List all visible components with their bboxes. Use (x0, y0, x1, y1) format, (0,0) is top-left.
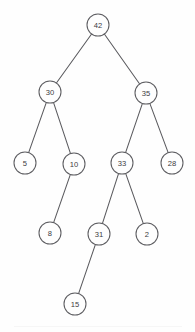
scan-artifact-line (14, 326, 182, 327)
tree-node-28[interactable]: 28 (161, 152, 183, 174)
tree-node-label-2: 2 (145, 230, 149, 239)
tree-node-label-8: 8 (48, 229, 52, 238)
edge-layer (29, 34, 169, 294)
tree-node-35[interactable]: 35 (135, 82, 157, 104)
tree-edge-30-to-5 (29, 102, 47, 152)
tree-node-label-42: 42 (94, 21, 103, 30)
tree-edge-30-to-10 (53, 102, 70, 153)
tree-edge-35-to-28 (150, 103, 168, 152)
tree-node-10[interactable]: 10 (63, 153, 85, 175)
tree-node-label-35: 35 (142, 89, 151, 98)
tree-node-8[interactable]: 8 (39, 222, 61, 244)
tree-node-33[interactable]: 33 (111, 152, 133, 174)
tree-node-label-30: 30 (46, 88, 55, 97)
tree-node-42[interactable]: 42 (87, 14, 109, 36)
tree-node-31[interactable]: 31 (88, 223, 110, 245)
tree-svg-root: 4230355103328831215 (0, 0, 195, 332)
tree-diagram-canvas: 4230355103328831215 (0, 0, 195, 332)
tree-node-5[interactable]: 5 (14, 152, 36, 174)
tree-edge-42-to-35 (104, 34, 139, 84)
tree-edge-35-to-33 (126, 103, 143, 152)
tree-node-30[interactable]: 30 (39, 81, 61, 103)
tree-node-label-31: 31 (95, 230, 104, 239)
tree-edge-42-to-30 (56, 34, 91, 83)
node-layer: 4230355103328831215 (14, 14, 183, 315)
tree-edge-10-to-8 (54, 174, 71, 222)
tree-node-label-33: 33 (118, 159, 127, 168)
tree-node-label-15: 15 (71, 300, 80, 309)
tree-node-label-28: 28 (168, 159, 177, 168)
tree-edge-31-to-15 (79, 244, 96, 293)
tree-node-15[interactable]: 15 (64, 293, 86, 315)
tree-node-label-10: 10 (70, 160, 79, 169)
tree-edge-33-to-31 (102, 173, 118, 223)
tree-edge-33-to-2 (126, 173, 144, 223)
tree-node-2[interactable]: 2 (136, 223, 158, 245)
tree-node-label-5: 5 (23, 159, 27, 168)
